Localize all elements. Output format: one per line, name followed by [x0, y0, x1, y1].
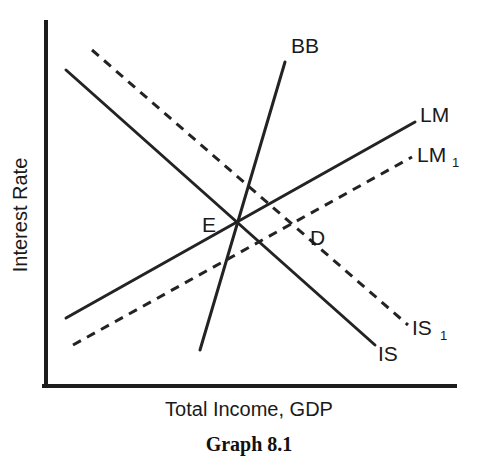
is1-curve-line	[92, 50, 408, 325]
is-lm-bb-diagram: IS IS 1 LM LM 1 BB E D	[0, 0, 484, 472]
lm-curve-group: LM	[66, 103, 449, 318]
is-curve-line	[66, 70, 375, 345]
lm1-curve-group: LM 1	[73, 143, 459, 345]
figure-caption: Graph 8.1	[206, 433, 293, 456]
is1-curve-group: IS 1	[92, 50, 447, 343]
lm-curve-label: LM	[420, 103, 449, 126]
is-curve-label: IS	[378, 342, 398, 365]
bb-curve-label: BB	[291, 34, 319, 57]
axes-group	[44, 22, 455, 386]
y-axis-title: Interest Rate	[9, 158, 31, 273]
bb-curve-group: BB	[200, 34, 319, 350]
lm1-curve-label-subscript: 1	[452, 155, 459, 170]
is1-curve-label: IS	[412, 316, 432, 339]
equilibrium-point-e-label: E	[202, 213, 216, 236]
x-axis-title: Total Income, GDP	[165, 398, 333, 420]
point-d-label: D	[310, 226, 325, 249]
lm1-curve-line	[73, 157, 412, 345]
is1-curve-label-subscript: 1	[440, 328, 447, 343]
bb-curve-line	[200, 62, 285, 350]
lm1-curve-label: LM	[417, 143, 446, 166]
lm-curve-line	[66, 122, 415, 318]
graph-figure: IS IS 1 LM LM 1 BB E D	[0, 0, 484, 472]
